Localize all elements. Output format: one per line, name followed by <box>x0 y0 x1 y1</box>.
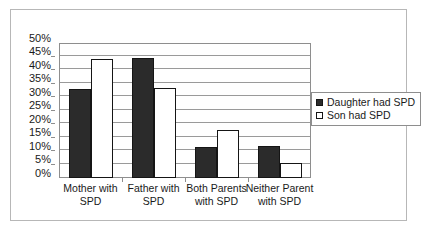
legend-entry[interactable]: Son had SPD <box>316 109 415 122</box>
y-tick-mark <box>51 96 55 97</box>
x-category-label: Mother with SPD <box>55 182 126 207</box>
gridline <box>60 122 310 123</box>
gridline <box>60 95 310 96</box>
y-tick-mark <box>51 150 55 151</box>
legend-label: Son had SPD <box>327 110 391 121</box>
gridlines <box>60 44 310 177</box>
y-tick-mark <box>51 123 55 124</box>
y-tick-label: 30% <box>29 86 51 97</box>
x-category-label: Both Parents with SPD <box>181 182 252 207</box>
chart-figure-frame: 0%5%10%15%20%25%30%35%40%45%50% Mother w… <box>10 9 407 221</box>
y-tick-label: 25% <box>29 100 51 111</box>
chart-legend: Daughter had SPDSon had SPD <box>311 92 421 126</box>
gridline <box>60 163 310 164</box>
gridline <box>60 149 310 150</box>
y-tick-label: 5% <box>35 154 51 165</box>
legend-entry[interactable]: Daughter had SPD <box>316 96 415 109</box>
y-tick-label: 50% <box>29 32 51 43</box>
y-tick-mark <box>51 83 55 84</box>
gridline <box>60 136 310 137</box>
y-tick-label: 35% <box>29 73 51 84</box>
x-category-label: Neither Parent with SPD <box>244 182 315 207</box>
x-category-label: Father with SPD <box>118 182 189 207</box>
y-axis: 0%5%10%15%20%25%30%35%40%45%50% <box>21 43 55 178</box>
gridline <box>60 55 310 56</box>
y-tick-label: 15% <box>29 127 51 138</box>
filled-square-icon <box>316 99 323 106</box>
hollow-square-icon <box>316 112 323 119</box>
y-tick-label: 40% <box>29 59 51 70</box>
y-tick-label: 45% <box>29 46 51 57</box>
x-axis-labels: Mother with SPDFather with SPDBoth Paren… <box>59 182 311 228</box>
gridline <box>60 109 310 110</box>
y-tick-mark <box>51 164 55 165</box>
gridline <box>60 82 310 83</box>
plot-area <box>59 43 311 178</box>
legend-label: Daughter had SPD <box>327 97 415 108</box>
y-tick-mark <box>51 56 55 57</box>
y-tick-label: 0% <box>35 167 51 178</box>
y-tick-mark <box>51 137 55 138</box>
y-tick-label: 20% <box>29 113 51 124</box>
y-tick-mark <box>51 110 55 111</box>
gridline <box>60 68 310 69</box>
y-tick-label: 10% <box>29 140 51 151</box>
y-tick-mark <box>51 69 55 70</box>
